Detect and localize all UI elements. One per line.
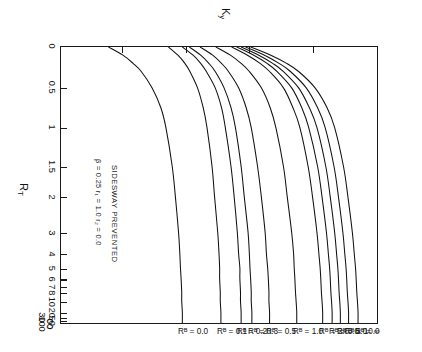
x-axis-tick-label: 1.5 <box>47 160 56 173</box>
y-axis-tick <box>186 47 187 53</box>
x-axis-tick-label: 8 <box>47 290 56 295</box>
y-axis-tick <box>249 47 250 53</box>
x-axis-tick <box>61 287 67 288</box>
x-axis-tick <box>61 321 67 322</box>
y-axis-tick <box>122 47 123 53</box>
curve-4 <box>232 47 323 323</box>
curve-2 <box>241 47 340 323</box>
x-axis-tick-label: 5 <box>47 266 56 271</box>
x-axis-tick <box>61 167 67 168</box>
plot-area: SIDESWAY PREVENTED β = 0.25 r₁ = 1.0 r₂ … <box>60 46 378 324</box>
annotation-parameters: β = 0.25 r₁ = 1.0 r₂ = 0.0 <box>94 159 103 246</box>
curve-7 <box>189 47 252 323</box>
x-axis-tick-label: 2 <box>47 194 56 199</box>
x-axis-tick <box>61 293 67 294</box>
x-axis-tick-label: 0 <box>47 43 56 48</box>
x-axis-tick-label: 7 <box>47 284 56 289</box>
curve-end-label: Rᴮ = 2.0 <box>319 328 349 336</box>
x-axis-tick-label: ∞ <box>41 318 58 330</box>
y-axis-tick <box>313 47 314 53</box>
figure-page: SIDESWAY PREVENTED β = 0.25 r₁ = 1.0 r₂ … <box>0 0 422 352</box>
curve-6 <box>200 47 270 323</box>
y-axis-title-sub: y <box>218 15 227 19</box>
curve-5 <box>216 47 297 323</box>
x-axis-tick-label: 10 <box>47 297 56 307</box>
x-axis-tick <box>61 279 67 280</box>
curve-end-label: Rᴮ = 0.1 <box>217 328 247 336</box>
x-axis-title-main: R <box>18 183 30 191</box>
x-axis-title: RT <box>16 183 30 196</box>
x-axis-tick <box>61 318 67 319</box>
rotated-figure-stage: SIDESWAY PREVENTED β = 0.25 r₁ = 1.0 r₂ … <box>0 0 422 352</box>
curve-10 <box>108 47 182 323</box>
x-axis-tick <box>61 88 67 89</box>
x-axis-tick <box>61 197 67 198</box>
curve-layer <box>61 47 377 323</box>
x-axis-tick <box>61 128 67 129</box>
curve-end-label: Rᴮ = 0.0 <box>178 328 208 336</box>
x-axis-tick <box>61 302 67 303</box>
curve-8 <box>182 47 241 323</box>
x-axis-tick-label: 4 <box>47 251 56 256</box>
x-axis-tick <box>61 233 67 234</box>
y-axis-title: Ky <box>218 8 232 19</box>
curve-end-label: Rᴮ = 1.0 <box>293 328 323 336</box>
x-axis-title-sub: T <box>16 191 25 196</box>
x-axis-tick <box>61 313 67 314</box>
curve-1 <box>246 47 349 323</box>
x-axis-tick-label: 0.5 <box>47 81 56 94</box>
x-axis-tick-label: 3 <box>47 230 56 235</box>
curve-0 <box>251 47 358 323</box>
x-axis-tick-label: 1 <box>47 125 56 130</box>
x-axis-tick-label: 6 <box>47 276 56 281</box>
x-axis-tick <box>61 254 67 255</box>
x-axis-tick <box>61 269 67 270</box>
curve-9 <box>168 47 221 323</box>
annotation-sidesway: SIDESWAY PREVENTED <box>110 165 119 263</box>
